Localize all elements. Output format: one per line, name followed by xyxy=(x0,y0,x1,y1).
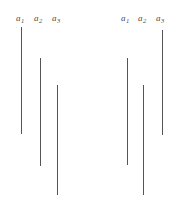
label-subscript: 3 xyxy=(161,17,165,24)
right-group-label-a1: a1 xyxy=(121,14,129,25)
label-base: a xyxy=(121,13,126,23)
right-group: a1 a2 a3 xyxy=(0,0,178,212)
right-group-label-a3: a3 xyxy=(156,14,164,25)
right-group-segment-a3 xyxy=(162,30,163,135)
right-group-label-a2: a2 xyxy=(138,14,146,25)
label-base: a xyxy=(138,13,143,23)
label-subscript: 1 xyxy=(126,17,130,24)
line-segment-figure: a1 a2 a3 a1 a2 a3 xyxy=(0,0,178,212)
right-group-segment-a2 xyxy=(143,85,144,195)
label-subscript: 2 xyxy=(143,17,147,24)
label-base: a xyxy=(156,13,161,23)
right-group-segment-a1 xyxy=(127,58,128,165)
